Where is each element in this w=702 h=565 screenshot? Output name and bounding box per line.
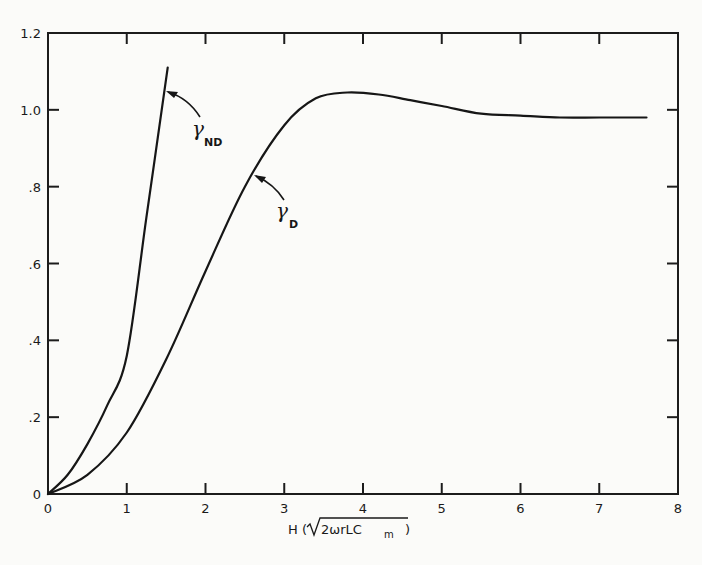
- x-tick-label: 6: [516, 501, 524, 516]
- y-tick-label: .6: [29, 257, 41, 272]
- x-tick-label: 7: [595, 501, 603, 516]
- y-tick-label: .8: [29, 180, 41, 195]
- x-tick-label: 4: [359, 501, 367, 516]
- gamma-d-curve: [48, 92, 647, 494]
- x-tick-label: 8: [674, 501, 682, 516]
- x-tick-label: 0: [44, 501, 52, 516]
- x-axis-label: H ( 2ωrLC m ): [288, 518, 410, 540]
- y-tick-label: 0: [33, 487, 41, 502]
- plot-border: [48, 33, 678, 494]
- y-tick-label: 1.0: [20, 103, 41, 118]
- annotation-gamma-nd: γ ND: [166, 91, 222, 149]
- x-tick-labels: 012345678: [44, 501, 682, 516]
- axis-ticks: [48, 33, 678, 494]
- x-tick-label: 3: [280, 501, 288, 516]
- x-tick-label: 2: [201, 501, 209, 516]
- x-axis-label-radicand: 2ωrLC: [321, 522, 362, 537]
- y-tick-label: .4: [29, 333, 41, 348]
- gamma-nd-subscript: ND: [204, 136, 222, 149]
- data-curves: [48, 68, 647, 494]
- annotation-gamma-d: γ D: [254, 175, 298, 231]
- gamma-d-subscript: D: [289, 218, 298, 231]
- gamma-nd-symbol: γ: [192, 117, 204, 141]
- y-tick-label: .2: [29, 410, 41, 425]
- x-axis-label-suffix: ): [405, 522, 410, 537]
- x-tick-label: 5: [438, 501, 446, 516]
- gamma-d-symbol: γ: [276, 199, 288, 223]
- x-axis-label-subscript: m: [384, 529, 394, 540]
- gamma-nd-curve: [48, 68, 168, 494]
- gamma-nd-arrowhead: [166, 91, 178, 98]
- chart-canvas: 012345678 0.2.4.6.81.01.2 γ ND γ D H ( 2…: [0, 0, 702, 565]
- y-tick-labels: 0.2.4.6.81.01.2: [20, 26, 41, 502]
- x-axis-label-prefix: H (: [288, 522, 307, 537]
- plot-frame: [48, 33, 678, 494]
- x-tick-label: 1: [123, 501, 131, 516]
- y-tick-label: 1.2: [20, 26, 41, 41]
- gamma-d-arrowhead: [254, 175, 266, 183]
